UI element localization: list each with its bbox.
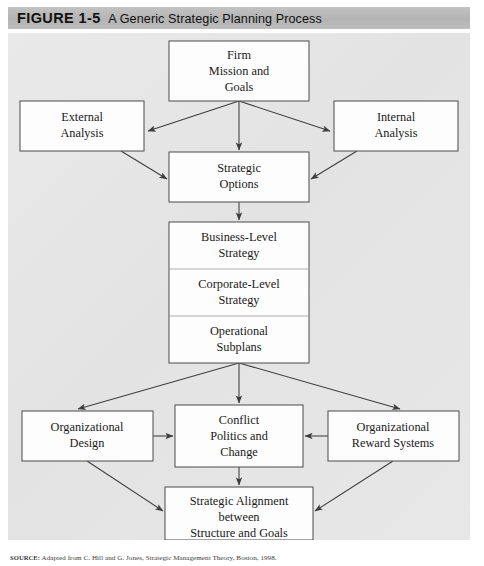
edge-mission-to-external bbox=[148, 101, 239, 131]
strategic-options-line-1: Strategic bbox=[217, 161, 261, 175]
strategic-alignment-line-2: between bbox=[219, 510, 260, 524]
operational-subplans-line-1: Operational bbox=[210, 324, 269, 338]
node-external-analysis: External Analysis bbox=[20, 101, 144, 151]
organizational-design-line-2: Design bbox=[70, 436, 105, 450]
internal-analysis-line-2: Analysis bbox=[374, 126, 417, 140]
business-level-strategy-line-2: Strategy bbox=[219, 246, 261, 260]
corporate-level-strategy-line-1: Corporate-Level bbox=[198, 277, 280, 291]
node-organizational-design: Organizational Design bbox=[22, 411, 153, 461]
node-strategic-alignment: Strategic Alignment between Structure an… bbox=[165, 487, 313, 540]
node-conflict-politics-change: Conflict Politics and Change bbox=[175, 405, 303, 467]
internal-analysis-line-1: Internal bbox=[377, 110, 416, 124]
firm-mission-line-3: Goals bbox=[225, 80, 254, 94]
conflict-politics-change-line-3: Change bbox=[220, 445, 258, 459]
source-note: SOURCE: Adapted from C. Hill and G. Jone… bbox=[10, 553, 480, 563]
figure-number-label: FIGURE 1-5 bbox=[17, 10, 101, 26]
figure-title: A Generic Strategic Planning Process bbox=[108, 12, 322, 26]
firm-mission-line-2: Mission and bbox=[209, 64, 269, 78]
external-analysis-line-2: Analysis bbox=[60, 126, 103, 140]
operational-subplans-line-2: Subplans bbox=[216, 340, 261, 354]
organizational-design-line-1: Organizational bbox=[51, 420, 124, 434]
node-firm-mission: Firm Mission and Goals bbox=[169, 41, 309, 101]
external-analysis-line-1: External bbox=[61, 110, 103, 124]
strategic-alignment-line-1: Strategic Alignment bbox=[190, 494, 289, 508]
conflict-politics-change-line-1: Conflict bbox=[219, 413, 260, 427]
node-strategic-options: Strategic Options bbox=[169, 152, 309, 202]
edge-subplans-to-org-design bbox=[78, 363, 239, 409]
source-label: SOURCE: bbox=[10, 554, 40, 561]
figure-container: FIGURE 1-5 A Generic Strategic Planning … bbox=[0, 0, 484, 566]
edge-subplans-to-reward-systems bbox=[239, 363, 400, 409]
edge-reward-systems-to-alignment bbox=[315, 461, 393, 511]
source-text: Adapted from C. Hill and G. Jones, Strat… bbox=[41, 554, 276, 562]
organizational-reward-systems-line-2: Reward Systems bbox=[352, 436, 435, 450]
edge-mission-to-internal bbox=[239, 101, 330, 131]
strategic-planning-flowchart: Firm Mission and Goals External Analysis… bbox=[8, 33, 470, 540]
edge-internal-to-options bbox=[311, 151, 357, 179]
node-organizational-reward-systems: Organizational Reward Systems bbox=[328, 411, 459, 461]
conflict-politics-change-line-2: Politics and bbox=[210, 429, 268, 443]
figure-header-text: FIGURE 1-5 A Generic Strategic Planning … bbox=[17, 8, 467, 30]
strategic-options-line-2: Options bbox=[220, 177, 259, 191]
corporate-level-strategy-line-2: Strategy bbox=[219, 293, 261, 307]
edge-org-design-to-alignment bbox=[87, 461, 163, 511]
diagram-panel: Firm Mission and Goals External Analysis… bbox=[8, 33, 470, 540]
node-internal-analysis: Internal Analysis bbox=[334, 101, 458, 151]
node-strategy-stack: Business-Level Strategy Corporate-Level … bbox=[169, 222, 309, 363]
strategic-alignment-line-3: Structure and Goals bbox=[190, 526, 288, 540]
firm-mission-line-1: Firm bbox=[227, 48, 251, 62]
business-level-strategy-line-1: Business-Level bbox=[201, 230, 277, 244]
organizational-reward-systems-line-1: Organizational bbox=[357, 420, 430, 434]
edge-external-to-options bbox=[121, 151, 167, 179]
